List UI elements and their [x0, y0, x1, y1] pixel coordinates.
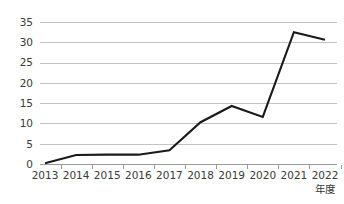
- y-axis-tick-label: 35: [20, 16, 33, 28]
- x-axis-tick-label: 2016: [125, 169, 152, 181]
- x-axis-tick-label: 2022: [312, 169, 339, 181]
- x-axis-tick-label: 2015: [94, 169, 121, 181]
- x-axis-tick-label: 2020: [249, 169, 276, 181]
- y-axis-tick-label: 5: [26, 138, 33, 150]
- x-axis-tick-label: 2021: [281, 169, 308, 181]
- x-axis-tick-label: 2013: [32, 169, 59, 181]
- y-axis-tick-label: 10: [20, 117, 33, 129]
- chart-plot-area: 05101520253035 2013201420152016201720182…: [0, 0, 344, 204]
- x-axis-tick-label: 2017: [156, 169, 183, 181]
- x-axis-tick-label: 2018: [187, 169, 214, 181]
- y-axis-tick-label: 15: [20, 97, 33, 109]
- x-axis-tick-label: 2014: [63, 169, 90, 181]
- line-chart: 05101520253035 2013201420152016201720182…: [0, 0, 344, 204]
- y-axis-tick-label: 20: [20, 77, 33, 89]
- y-axis-tick-label: 25: [20, 56, 33, 68]
- y-axis-tick-label: 0: [26, 158, 33, 170]
- x-axis-tick-label: 2019: [218, 169, 245, 181]
- y-axis-tick-label: 30: [20, 36, 33, 48]
- x-axis-title: 年度: [315, 183, 336, 195]
